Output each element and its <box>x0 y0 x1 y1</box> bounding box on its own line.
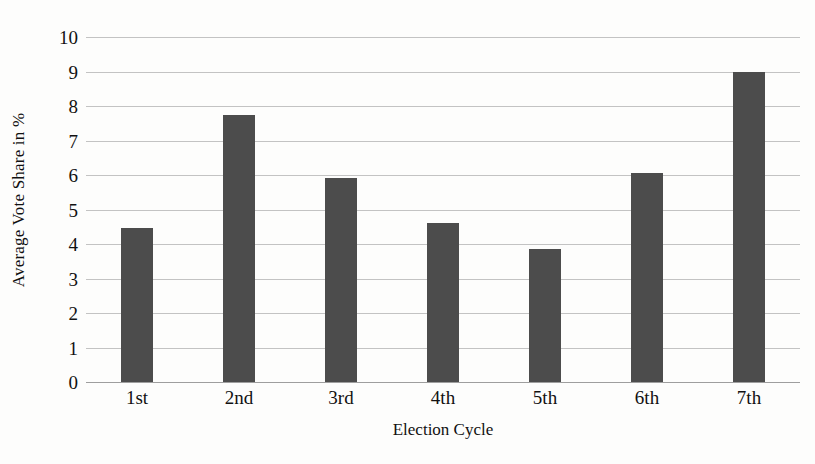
bars <box>86 37 800 382</box>
y-tick-label: 7 <box>38 131 78 150</box>
bar-chart: Average Vote Share in % 109876543210 1st… <box>0 0 815 464</box>
y-axis-title-text: Average Vote Share in % <box>9 113 29 288</box>
y-tick-label: 9 <box>38 62 78 81</box>
x-axis-tick-labels: 1st2nd3rd4th5th6th7th <box>86 388 800 414</box>
x-tick-label: 2nd <box>199 388 279 409</box>
x-tick-label: 6th <box>607 388 687 409</box>
bar[interactable] <box>631 173 663 382</box>
y-tick-label: 4 <box>38 235 78 254</box>
gridline <box>86 382 800 383</box>
bar[interactable] <box>427 223 459 382</box>
plot-area <box>86 37 800 382</box>
y-tick-label: 6 <box>38 166 78 185</box>
x-tick-label: 7th <box>709 388 789 409</box>
x-tick-label: 4th <box>403 388 483 409</box>
y-tick-label: 3 <box>38 269 78 288</box>
bar[interactable] <box>325 178 357 382</box>
y-axis-tick-labels: 109876543210 <box>30 37 78 382</box>
x-axis-title: Election Cycle <box>86 420 800 440</box>
y-tick-label: 5 <box>38 200 78 219</box>
bar[interactable] <box>733 72 765 383</box>
bar[interactable] <box>121 228 153 382</box>
bar[interactable] <box>223 115 255 382</box>
x-tick-label: 3rd <box>301 388 381 409</box>
y-tick-label: 8 <box>38 97 78 116</box>
x-tick-label: 1st <box>97 388 177 409</box>
bar[interactable] <box>529 249 561 382</box>
x-tick-label: 5th <box>505 388 585 409</box>
y-tick-label: 2 <box>38 304 78 323</box>
y-tick-label: 10 <box>38 28 78 47</box>
y-tick-label: 0 <box>38 373 78 392</box>
y-tick-label: 1 <box>38 338 78 357</box>
